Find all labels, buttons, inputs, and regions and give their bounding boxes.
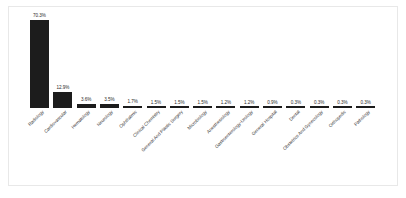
bar-value-label: 1.2%	[244, 101, 254, 106]
category-label: Neurology	[97, 110, 115, 128]
bar-column[interactable]: 0.3%	[333, 106, 352, 108]
bar[interactable]	[333, 106, 352, 108]
category-label: Orthopedic	[329, 110, 348, 129]
bar-column[interactable]: 1.5%	[193, 106, 212, 108]
category-label-text: General Hospital	[251, 110, 278, 137]
bar-value-label: 70.3%	[33, 14, 46, 19]
bar-chart-plot-area: 70.3%Radiology12.9%Cardiovascular3.6%Hem…	[0, 0, 406, 198]
category-label: Cardiovascular	[44, 110, 68, 134]
bar[interactable]	[263, 106, 282, 108]
category-label: Microbiology	[187, 110, 208, 131]
category-label: General Hospital	[251, 110, 278, 137]
bar-column[interactable]: 0.9%	[263, 106, 282, 108]
category-label-text: Ophthalmic	[119, 110, 138, 129]
category-label-text: Hematology	[71, 110, 91, 130]
bar-column[interactable]: 1.5%	[170, 106, 189, 108]
category-label-text: Pathology	[354, 110, 371, 127]
bar-column[interactable]: 1.2%	[216, 106, 235, 108]
bar-value-label: 0.3%	[337, 101, 347, 106]
category-label: Radiology	[27, 110, 44, 127]
category-label-text: Dental	[289, 110, 301, 122]
bar[interactable]	[310, 106, 329, 108]
bar[interactable]	[53, 92, 72, 108]
bar-column[interactable]: 3.5%	[100, 104, 119, 108]
category-label: Hematology	[71, 110, 91, 130]
bar-column[interactable]: 0.3%	[356, 106, 375, 108]
bar-value-label: 12.9%	[56, 86, 69, 91]
bar[interactable]	[240, 106, 259, 108]
bar-value-label: 0.3%	[291, 101, 301, 106]
category-label-text: General And Plastic Surgery	[141, 110, 184, 153]
bar[interactable]	[147, 106, 166, 108]
bar[interactable]	[100, 104, 119, 108]
bar[interactable]	[123, 106, 142, 108]
bar-column[interactable]: 1.7%	[123, 106, 142, 108]
bar-column[interactable]: 1.2%	[240, 106, 259, 108]
bar[interactable]	[356, 106, 375, 108]
bar-column[interactable]: 12.9%	[53, 92, 72, 108]
category-label-text: Microbiology	[187, 110, 208, 131]
category-label-text: Neurology	[97, 110, 115, 128]
bar-value-label: 0.3%	[314, 101, 324, 106]
category-label: Pathology	[354, 110, 371, 127]
bar-value-label: 1.2%	[221, 101, 231, 106]
category-label: Dental	[289, 110, 301, 122]
bar-value-label: 0.3%	[361, 101, 371, 106]
bar[interactable]	[286, 106, 305, 108]
bar[interactable]	[170, 106, 189, 108]
bar-value-label: 3.5%	[104, 98, 114, 103]
bar-value-label: 1.5%	[197, 101, 207, 106]
bar-column[interactable]: 1.5%	[147, 106, 166, 108]
bar-value-label: 1.7%	[128, 100, 138, 105]
category-label-text: Radiology	[27, 110, 44, 127]
bar-value-label: 3.6%	[81, 98, 91, 103]
category-label-text: Cardiovascular	[44, 110, 68, 134]
bar-value-label: 1.5%	[151, 101, 161, 106]
bar-value-label: 0.9%	[267, 101, 277, 106]
bar[interactable]	[193, 106, 212, 108]
bar[interactable]	[30, 20, 49, 108]
bar-column[interactable]: 70.3%	[30, 20, 49, 108]
category-label: Ophthalmic	[119, 110, 138, 129]
bar-column[interactable]: 0.3%	[310, 106, 329, 108]
category-label: General And Plastic Surgery	[141, 110, 184, 153]
bar[interactable]	[77, 104, 96, 109]
bar-value-label: 1.5%	[174, 101, 184, 106]
bar[interactable]	[216, 106, 235, 108]
bar-column[interactable]: 3.6%	[77, 104, 96, 109]
category-label-text: Orthopedic	[329, 110, 348, 129]
bar-column[interactable]: 0.3%	[286, 106, 305, 108]
